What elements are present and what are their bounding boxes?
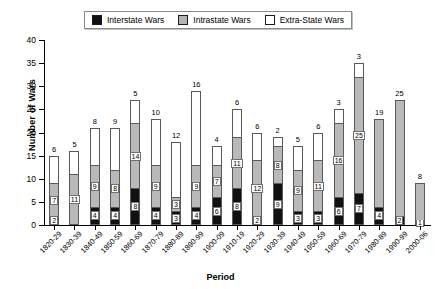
bar-segment-value: 11 (313, 182, 324, 191)
bar-segment-value: 3 (172, 214, 180, 223)
y-tick-label: 30 (14, 82, 36, 91)
bar-top-value: 9 (113, 118, 117, 126)
bar-segment-interstate-wars[interactable]: 9 (273, 183, 283, 225)
bar-column[interactable]: 3116 (313, 133, 323, 226)
bar-column[interactable]: 2126 (252, 133, 262, 226)
bar-segment-value: 2 (50, 216, 58, 225)
bar-top-value: 12 (172, 132, 180, 140)
bar-segment-intrastate-wars[interactable]: 3 (171, 197, 181, 211)
bar-segment-intrastate-wars[interactable]: 11 (232, 137, 242, 188)
bar-segment-value: 7 (213, 177, 221, 186)
bar-segment-value: 3 (294, 214, 302, 223)
bar-segment-intrastate-wars[interactable]: 12 (252, 160, 262, 216)
bar-segment-value: 3 (172, 200, 180, 209)
bar-column[interactable]: 982 (273, 137, 283, 225)
bar-segment-interstate-wars[interactable]: 4 (191, 207, 201, 226)
bar-column[interactable]: 225 (395, 100, 405, 225)
y-tick-label: 0 (14, 221, 36, 230)
bar-column[interactable]: 8116 (232, 109, 242, 225)
bar-segment-intrastate-wars[interactable]: 7 (212, 165, 222, 197)
black-square-icon (92, 15, 102, 25)
x-tick (257, 226, 258, 230)
bar-segment-extra-state-wars[interactable]: 6 (313, 133, 323, 161)
bar-segment-intrastate-wars[interactable]: 19 (374, 119, 384, 207)
bar-column[interactable]: 419 (374, 119, 384, 225)
bar-segment-interstate-wars[interactable]: 3 (171, 211, 181, 225)
bar-column[interactable]: 18 (415, 183, 425, 225)
bar-segment-value: 2 (396, 216, 404, 225)
bar-column[interactable]: 498 (90, 128, 100, 225)
bar-column[interactable]: 8145 (130, 100, 140, 225)
bar-segment-extra-state-wars[interactable]: 5 (69, 151, 79, 174)
bar-segment-value: 9 (274, 200, 282, 209)
bar-segment-interstate-wars[interactable]: 4 (374, 207, 384, 226)
bar-segment-intrastate-wars[interactable]: 14 (130, 123, 140, 188)
bar-top-value: 16 (192, 81, 200, 89)
bar-segment-intrastate-wars[interactable]: 11 (69, 174, 79, 225)
bar-segment-intrastate-wars[interactable]: 25 (395, 100, 405, 216)
bar-segment-value: 4 (375, 211, 383, 220)
bar-segment-intrastate-wars[interactable]: 9 (90, 165, 100, 207)
bar-segment-extra-state-wars[interactable]: 6 (49, 156, 59, 184)
bar-segment-extra-state-wars[interactable]: 6 (232, 109, 242, 137)
bar-segment-extra-state-wars[interactable]: 5 (293, 146, 303, 169)
bar-segment-extra-state-wars[interactable]: 12 (171, 142, 181, 198)
bar-segment-interstate-wars[interactable]: 4 (110, 207, 120, 226)
bar-segment-extra-state-wars[interactable]: 2 (273, 137, 283, 146)
bar-segment-intrastate-wars[interactable]: 9 (191, 165, 201, 207)
bar-segment-extra-state-wars[interactable]: 6 (252, 133, 262, 161)
bar-column[interactable]: 674 (212, 146, 222, 225)
bar-segment-interstate-wars[interactable]: 4 (90, 207, 100, 226)
x-tick (54, 226, 55, 230)
x-tick (95, 226, 96, 230)
bar-column[interactable]: 395 (293, 146, 303, 225)
bar-segment-extra-state-wars[interactable]: 16 (191, 91, 201, 165)
bar-segment-interstate-wars[interactable]: 8 (232, 188, 242, 225)
bar-segment-intrastate-wars[interactable]: 25 (354, 77, 364, 193)
bar-column[interactable]: 7253 (354, 63, 364, 225)
bar-segment-intrastate-wars[interactable]: 7 (49, 183, 59, 215)
bar-segment-extra-state-wars[interactable]: 10 (151, 119, 161, 165)
bar-segment-value: 3 (314, 214, 322, 223)
bar-column[interactable]: 6163 (334, 109, 344, 225)
bar-segment-interstate-wars[interactable]: 3 (313, 211, 323, 225)
bar-segment-extra-state-wars[interactable]: 4 (212, 146, 222, 165)
bar-column[interactable]: 489 (110, 128, 120, 225)
bar-column[interactable]: 4910 (151, 119, 161, 225)
bar-segment-interstate-wars[interactable]: 2 (49, 216, 59, 225)
bar-segment-intrastate-wars[interactable]: 8 (110, 170, 120, 207)
bar-segment-extra-state-wars[interactable]: 9 (110, 128, 120, 170)
x-tick (379, 226, 380, 230)
bar-segment-intrastate-wars[interactable]: 11 (313, 160, 323, 211)
bar-segment-value: 2 (253, 216, 261, 225)
bar-segment-extra-state-wars[interactable]: 3 (354, 63, 364, 77)
bar-top-value: 2 (276, 127, 280, 135)
y-tick-label: 20 (14, 129, 36, 138)
bar-column[interactable]: 3312 (171, 142, 181, 225)
bar-column[interactable]: 115 (69, 151, 79, 225)
bar-segment-interstate-wars[interactable]: 3 (293, 211, 303, 225)
bar-segment-interstate-wars[interactable]: 7 (354, 193, 364, 225)
bar-segment-extra-state-wars[interactable]: 3 (334, 109, 344, 123)
bar-segment-intrastate-wars[interactable]: 9 (151, 165, 161, 207)
bar-segment-extra-state-wars[interactable]: 8 (90, 128, 100, 165)
bar-segment-interstate-wars[interactable]: 8 (130, 188, 140, 225)
bar-column[interactable]: 4916 (191, 91, 201, 225)
bar-segment-intrastate-wars[interactable]: 8 (273, 146, 283, 183)
bar-segment-interstate-wars[interactable]: 2 (395, 216, 405, 225)
bar-segment-intrastate-wars[interactable]: 16 (334, 123, 344, 197)
bar-segment-interstate-wars[interactable]: 6 (212, 197, 222, 225)
bar-segment-intrastate-wars[interactable]: 8 (415, 183, 425, 220)
white-square-icon (265, 15, 275, 25)
bar-segment-interstate-wars[interactable]: 2 (252, 216, 262, 225)
bar-segment-interstate-wars[interactable]: 4 (151, 207, 161, 226)
bar-top-value: 3 (336, 99, 340, 107)
bar-segment-extra-state-wars[interactable]: 5 (130, 100, 140, 123)
bar-segment-interstate-wars[interactable]: 1 (415, 220, 425, 225)
x-tick (115, 226, 116, 230)
legend-item-interstate: Interstate Wars (92, 15, 164, 25)
bar-segment-interstate-wars[interactable]: 6 (334, 197, 344, 225)
bar-segment-intrastate-wars[interactable]: 9 (293, 170, 303, 212)
bar-column[interactable]: 276 (49, 156, 59, 225)
bar-top-value: 10 (152, 109, 160, 117)
